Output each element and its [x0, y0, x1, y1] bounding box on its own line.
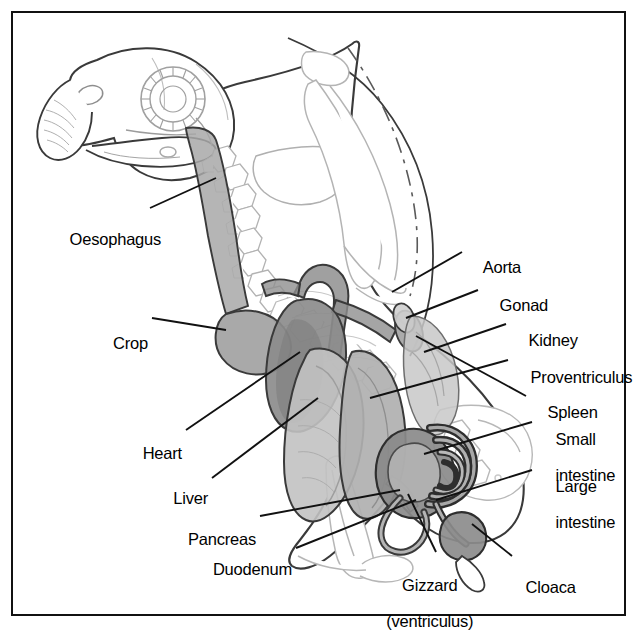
- label-small-intestine-line1: Small: [556, 430, 596, 448]
- label-large-intestine-line1: Large: [556, 477, 597, 495]
- label-large-intestine-line2: intestine: [556, 513, 616, 531]
- cloaca-bulb: [440, 512, 487, 560]
- leader-gonad: [406, 290, 478, 318]
- label-oesophagus: Oesophagus: [52, 212, 148, 266]
- label-gizzard: Gizzard (ventriculus): [368, 558, 474, 634]
- leader-crop: [152, 318, 226, 330]
- label-gizzard-line2: (ventriculus): [386, 612, 473, 630]
- label-cloaca: Cloaca: [508, 560, 576, 614]
- label-crop: Crop: [62, 316, 148, 370]
- leader-aorta: [392, 252, 462, 292]
- label-large-intestine: Large intestine: [538, 459, 615, 549]
- label-gizzard-line1: Gizzard: [402, 576, 457, 594]
- label-duodenum: Duodenum: [186, 542, 292, 596]
